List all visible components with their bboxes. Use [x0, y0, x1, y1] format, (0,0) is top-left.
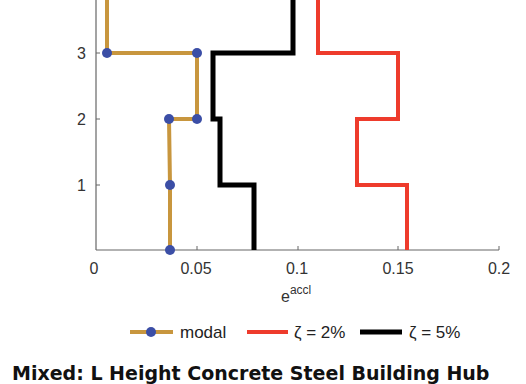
y-tick-label: 3 [77, 45, 86, 62]
x-tick-label: 0.15 [382, 260, 413, 277]
x-axis-label: eaccl [281, 283, 311, 305]
modal-marker [165, 180, 175, 190]
legend-modal-marker [146, 327, 156, 337]
y-tick-label: 2 [77, 111, 86, 128]
modal-marker [165, 245, 175, 255]
x-tick-label: 0.05 [180, 260, 211, 277]
modal-marker [192, 114, 202, 124]
legend-zeta-2-label: ζ = 2% [294, 323, 345, 342]
x-tick-label: 0.1 [286, 260, 308, 277]
figure-caption: Mixed: L Height Concrete Steel Building … [12, 362, 489, 384]
x-tick-label: 0 [90, 260, 99, 277]
modal-marker [102, 48, 112, 58]
series-zeta-5-line [213, 0, 293, 250]
y-tick-label: 1 [77, 177, 86, 194]
legend-zeta-5-label: ζ = 5% [409, 323, 460, 342]
series-zeta-2-line [318, 0, 407, 250]
modal-marker [164, 114, 174, 124]
modal-marker [192, 48, 202, 58]
legend-modal-label: modal [180, 323, 226, 342]
series-modal-line [107, 0, 197, 250]
x-tick-label: 0.2 [488, 260, 510, 277]
modal-markers [102, 48, 202, 255]
legend: modal ζ = 2% ζ = 5% [130, 323, 460, 342]
